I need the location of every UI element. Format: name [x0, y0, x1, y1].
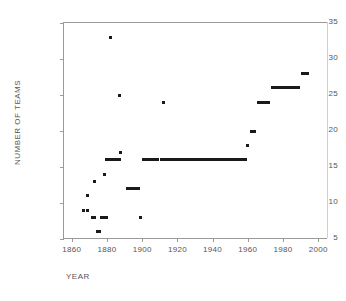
y-axis-tick-label: 10 — [329, 198, 339, 206]
x-axis-tick-label: 1860 — [62, 245, 81, 254]
data-mark — [139, 216, 142, 219]
plot-right-edge — [327, 22, 328, 238]
x-axis-tick — [107, 238, 108, 242]
data-mark — [91, 216, 96, 219]
data-mark — [86, 209, 89, 212]
data-mark — [162, 101, 165, 104]
y-axis-tick — [60, 239, 64, 240]
y-axis-tick — [60, 203, 64, 204]
x-axis-tick-label: 2000 — [309, 245, 328, 254]
data-mark — [118, 94, 121, 97]
data-mark — [105, 158, 112, 161]
x-axis-tick — [142, 238, 143, 242]
data-mark — [250, 130, 257, 133]
y-axis-tick-label: 5 — [333, 234, 338, 242]
data-mark — [301, 72, 309, 75]
x-axis-tick-label: 1980 — [274, 245, 293, 254]
y-axis-tick — [60, 23, 64, 24]
data-mark — [119, 151, 122, 154]
x-axis-tick-label: 1900 — [133, 245, 152, 254]
chart-container: 5101520253035 18601880190019201940196019… — [0, 0, 346, 301]
x-axis-tick-label: 1920 — [168, 245, 187, 254]
data-mark — [109, 36, 112, 39]
data-mark — [126, 187, 140, 190]
y-axis-tick-label: 30 — [329, 54, 339, 62]
data-mark — [112, 158, 120, 161]
x-axis-tick-label: 1880 — [98, 245, 117, 254]
y-axis-tick-label: 25 — [329, 90, 339, 98]
data-mark — [86, 194, 89, 197]
y-axis-tick-label: 20 — [329, 126, 339, 134]
data-mark — [165, 158, 247, 161]
data-mark — [160, 158, 165, 161]
y-axis-title: NUMBER OF TEAMS — [13, 53, 22, 193]
y-axis-tick — [60, 95, 64, 96]
x-axis-tick — [213, 238, 214, 242]
x-axis-tick-label: 1960 — [238, 245, 257, 254]
data-mark — [103, 173, 106, 176]
x-axis-tick — [72, 238, 73, 242]
y-axis-tick — [60, 131, 64, 132]
data-mark — [96, 230, 101, 233]
y-axis-tick — [60, 59, 64, 60]
x-axis-line — [63, 238, 327, 239]
y-axis-tick — [60, 167, 64, 168]
x-axis-tick-label: 1940 — [203, 245, 222, 254]
x-axis-tick — [318, 238, 319, 242]
x-axis-title: YEAR — [66, 272, 90, 281]
data-mark — [100, 216, 108, 219]
x-axis-tick — [248, 238, 249, 242]
data-mark — [142, 158, 159, 161]
y-axis-tick-label: 15 — [329, 162, 339, 170]
data-mark — [246, 144, 249, 147]
plot-area — [63, 22, 327, 238]
data-mark — [93, 180, 96, 183]
data-mark — [257, 101, 271, 104]
x-axis-tick — [177, 238, 178, 242]
data-mark — [271, 86, 300, 89]
x-axis-tick — [283, 238, 284, 242]
y-axis-tick-label: 35 — [329, 18, 339, 26]
